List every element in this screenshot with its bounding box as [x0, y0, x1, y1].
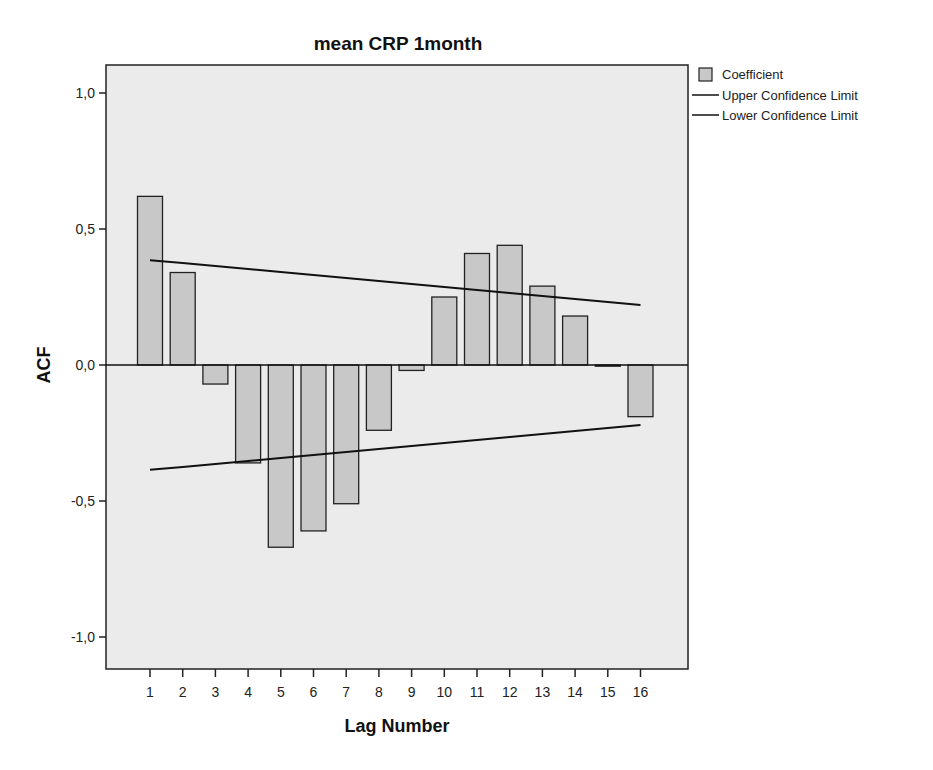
- y-tick-label: -1,0: [71, 629, 95, 645]
- y-tick-label: -0,5: [71, 493, 95, 509]
- y-axis: 1,00,50,0-0,5-1,0: [71, 85, 106, 645]
- x-tick-label: 8: [375, 684, 383, 700]
- coefficient-bar: [530, 286, 555, 365]
- chart-title: mean CRP 1month: [314, 33, 483, 54]
- y-tick-label: 1,0: [76, 85, 96, 101]
- coefficient-bar: [432, 297, 457, 365]
- coefficient-bar: [334, 365, 359, 504]
- acf-chart: mean CRP 1month 1,00,50,0-0,5-1,0 123456…: [0, 0, 933, 770]
- legend-upper-label: Upper Confidence Limit: [722, 88, 858, 103]
- y-tick-label: 0,0: [76, 357, 96, 373]
- plot-area: [106, 65, 688, 669]
- x-tick-label: 3: [212, 684, 220, 700]
- x-tick-label: 15: [600, 684, 616, 700]
- y-tick-label: 0,5: [76, 221, 96, 237]
- coefficient-bar: [563, 316, 588, 365]
- x-tick-label: 9: [408, 684, 416, 700]
- x-tick-label: 1: [146, 684, 154, 700]
- coefficient-bar: [399, 365, 424, 370]
- x-axis-title: Lag Number: [344, 716, 449, 736]
- coefficient-bar: [203, 365, 228, 384]
- y-axis-title: ACF: [34, 347, 54, 384]
- coefficient-bar: [301, 365, 326, 531]
- x-tick-label: 10: [437, 684, 453, 700]
- x-tick-label: 6: [310, 684, 318, 700]
- coefficient-bar: [170, 273, 195, 365]
- x-tick-label: 4: [244, 684, 252, 700]
- x-tick-label: 16: [633, 684, 649, 700]
- coefficient-bar: [465, 253, 490, 365]
- x-tick-label: 14: [567, 684, 583, 700]
- legend-lower-label: Lower Confidence Limit: [722, 108, 858, 123]
- coefficient-bar: [497, 245, 522, 365]
- x-tick-label: 12: [502, 684, 518, 700]
- coefficient-bar: [138, 196, 163, 365]
- x-tick-label: 2: [179, 684, 187, 700]
- coefficient-bar: [366, 365, 391, 430]
- x-axis: 12345678910111213141516: [146, 669, 648, 700]
- legend-coefficient-swatch-icon: [699, 68, 712, 81]
- legend-coefficient-label: Coefficient: [722, 67, 784, 82]
- coefficient-bar: [268, 365, 293, 547]
- x-tick-label: 5: [277, 684, 285, 700]
- coefficient-bar: [628, 365, 653, 417]
- legend: Coefficient Upper Confidence Limit Lower…: [692, 67, 858, 123]
- x-tick-label: 11: [470, 684, 485, 700]
- coefficient-bar: [236, 365, 261, 463]
- x-tick-label: 13: [535, 684, 551, 700]
- x-tick-label: 7: [342, 684, 350, 700]
